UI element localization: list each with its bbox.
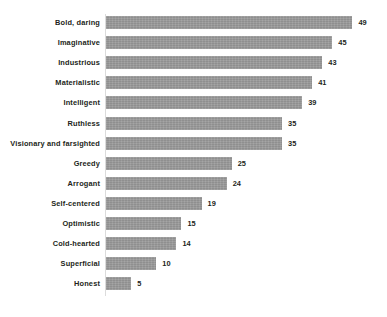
category-label: Self-centered [0, 197, 100, 210]
category-label: Ruthless [0, 117, 100, 130]
bar-row: Ruthless35 [0, 117, 387, 137]
bar [106, 117, 282, 130]
bar [106, 217, 181, 230]
bar-row: Greedy25 [0, 157, 387, 177]
bar-value-label: 49 [358, 17, 366, 29]
bar [106, 36, 332, 49]
category-label: Visionary and farsighted [0, 137, 100, 150]
bar-row: Honest5 [0, 277, 387, 297]
category-label: Arrogant [0, 177, 100, 190]
bar [106, 16, 352, 29]
category-label: Superficial [0, 257, 100, 270]
bar [106, 56, 322, 69]
bar-row: Cold-hearted14 [0, 237, 387, 257]
bar [106, 137, 282, 150]
bar-value-label: 45 [338, 37, 346, 49]
bar [106, 277, 131, 290]
bar-row: Arrogant24 [0, 177, 387, 197]
chart-plot-area: Bold, daring49Imaginative45Industrious43… [0, 0, 387, 317]
bar-row: Self-centered19 [0, 197, 387, 217]
category-label: Honest [0, 277, 100, 290]
category-label: Materialistic [0, 76, 100, 89]
category-label: Greedy [0, 157, 100, 170]
bar-value-label: 35 [288, 138, 296, 150]
bar [106, 237, 176, 250]
bar-row: Intelligent39 [0, 96, 387, 116]
bar [106, 177, 227, 190]
bar-row: Optimistic15 [0, 217, 387, 237]
bar-value-label: 14 [182, 238, 190, 250]
bar-value-label: 5 [137, 278, 141, 290]
bar-chart: Bold, daring49Imaginative45Industrious43… [0, 0, 387, 317]
category-label: Imaginative [0, 36, 100, 49]
bar-row: Visionary and farsighted35 [0, 137, 387, 157]
bar-row: Imaginative45 [0, 36, 387, 56]
bar [106, 96, 302, 109]
category-label: Bold, daring [0, 16, 100, 29]
bar-value-label: 19 [208, 198, 216, 210]
category-label: Cold-hearted [0, 237, 100, 250]
bar-row: Bold, daring49 [0, 16, 387, 36]
bar [106, 76, 312, 89]
bar-value-label: 24 [233, 178, 241, 190]
bar [106, 157, 232, 170]
bar-value-label: 35 [288, 118, 296, 130]
bar-value-label: 25 [238, 158, 246, 170]
bar-value-label: 10 [162, 258, 170, 270]
bar-value-label: 43 [328, 57, 336, 69]
category-label: Intelligent [0, 96, 100, 109]
bar [106, 257, 156, 270]
bar [106, 197, 202, 210]
bar-row: Superficial10 [0, 257, 387, 277]
category-label: Optimistic [0, 217, 100, 230]
bar-value-label: 41 [318, 77, 326, 89]
category-label: Industrious [0, 56, 100, 69]
bar-row: Industrious43 [0, 56, 387, 76]
bar-value-label: 15 [187, 218, 195, 230]
bar-value-label: 39 [308, 97, 316, 109]
bar-row: Materialistic41 [0, 76, 387, 96]
